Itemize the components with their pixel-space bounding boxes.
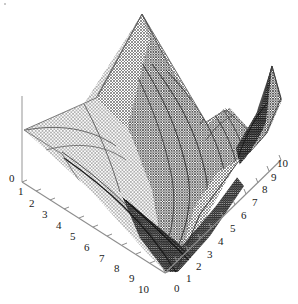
y-tick-label-10: 10 (277, 158, 288, 169)
x-tick-label-7: 7 (99, 253, 105, 264)
right-dark-valley-fold (232, 66, 272, 166)
x-tick-label-9: 9 (129, 273, 135, 284)
x-tick-label-2: 2 (29, 198, 35, 209)
x-tick-label-5: 5 (70, 231, 76, 242)
scan-artifact-speck (4, 3, 6, 5)
y-tick-label-5: 5 (230, 223, 236, 234)
x-tick-label-0: 0 (9, 173, 15, 184)
y-tick-label-3: 3 (207, 249, 213, 260)
x-tick-label-8: 8 (114, 263, 120, 274)
x-tick-label-1: 1 (18, 186, 24, 197)
y-tick-label-4: 4 (218, 236, 224, 247)
surface-plot-figure: 0 1 2 3 4 5 6 7 8 9 10 0 1 2 3 4 5 6 7 8… (0, 0, 298, 304)
y-tick-label-1: 1 (186, 273, 192, 284)
y-tick-label-9: 9 (271, 172, 277, 183)
x-tick-label-3: 3 (42, 209, 48, 220)
y-tick-label-7: 7 (252, 197, 258, 208)
y-tick-label-8: 8 (262, 184, 268, 195)
surface-mesh-canvas (0, 0, 298, 304)
y-tick-label-6: 6 (241, 210, 247, 221)
y-tick-label-0: 0 (174, 283, 180, 294)
x-tick-label-4: 4 (56, 220, 62, 231)
x-tick-label-10: 10 (138, 284, 149, 295)
y-tick-label-2: 2 (196, 261, 202, 272)
x-tick-label-6: 6 (84, 242, 90, 253)
